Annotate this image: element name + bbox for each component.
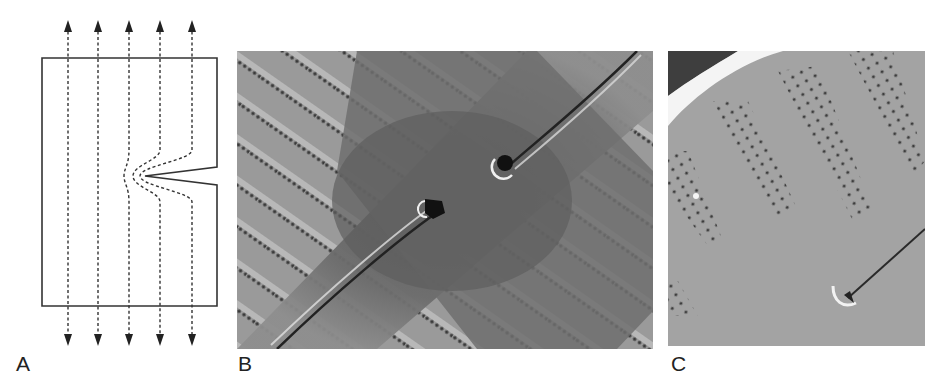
flow-line-3 bbox=[124, 26, 129, 340]
panel-a-schematic bbox=[0, 0, 230, 350]
sem-image-b bbox=[237, 51, 653, 349]
panel-label-c: C bbox=[671, 353, 686, 374]
panel-b-micrograph bbox=[237, 51, 653, 349]
flow-line-5 bbox=[140, 26, 192, 340]
flow-line-4 bbox=[133, 26, 160, 340]
panel-label-a: A bbox=[16, 353, 30, 374]
arrowheads-top bbox=[64, 20, 196, 32]
arrowheads-bottom bbox=[64, 334, 196, 346]
panel-label-b: B bbox=[238, 353, 252, 374]
notch-flow-diagram bbox=[0, 0, 230, 350]
sem-image-c bbox=[668, 51, 925, 346]
panel-c-micrograph bbox=[668, 51, 925, 346]
central-pore-upper bbox=[497, 155, 513, 171]
